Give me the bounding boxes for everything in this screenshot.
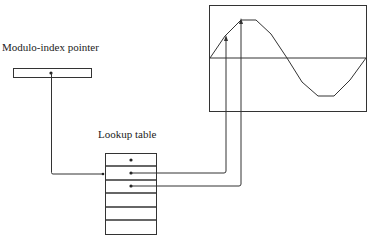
pointer-arrow: [52, 73, 105, 174]
diagram: [0, 0, 372, 240]
lookup-table: [105, 154, 157, 235]
connector-row3: [131, 21, 241, 186]
